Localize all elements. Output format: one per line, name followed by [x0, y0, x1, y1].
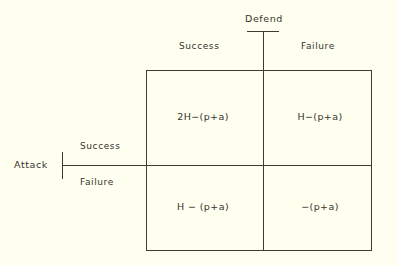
cell-failure-failure: −(p+a)	[301, 202, 339, 212]
row-label-failure: Failure	[80, 178, 114, 187]
matrix-column-divider	[263, 31, 264, 251]
cell-success-failure: H−(p+a)	[297, 112, 342, 122]
column-header-failure: Failure	[301, 42, 335, 51]
attack-axis-title: Attack	[14, 160, 48, 170]
cell-success-success: 2H−(p+a)	[177, 112, 229, 122]
matrix-box	[146, 70, 372, 251]
payoff-matrix-diagram: Defend Success Failure Attack Success Fa…	[0, 0, 397, 265]
column-header-success: Success	[179, 42, 219, 51]
cell-failure-success: H − (p+a)	[177, 202, 229, 212]
row-label-success: Success	[80, 142, 120, 151]
matrix-row-divider	[62, 165, 372, 166]
defend-axis-title: Defend	[245, 14, 283, 24]
